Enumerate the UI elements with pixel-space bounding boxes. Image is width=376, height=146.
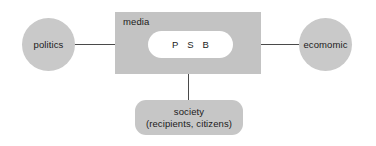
node-media[interactable]: media P S B [115,12,261,74]
node-society[interactable]: society (recipients, citizens) [135,100,243,135]
node-psb[interactable]: P S B [148,31,233,58]
connector-media-economic [261,44,301,45]
node-society-label-secondary: (recipients, citizens) [146,118,232,130]
node-psb-label: P S B [169,39,212,50]
node-economic[interactable]: ecomomic [299,18,352,71]
node-economic-label: ecomomic [303,39,347,50]
node-politics[interactable]: politics [22,18,75,71]
node-politics-label: politics [34,39,64,50]
node-society-label-primary: society [174,106,204,118]
node-media-label: media [123,16,149,27]
connector-media-society [188,74,189,101]
diagram-canvas: media P S B politics ecomomic society (r… [0,0,376,146]
connector-politics-media [74,44,116,45]
